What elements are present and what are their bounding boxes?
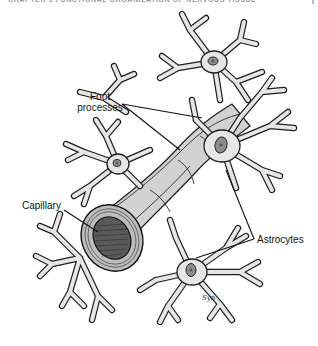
astrocyte-capillary-figure: Foot processes Capillary Astrocytes Syn: [0, 0, 318, 346]
label-foot-line1: Foot: [90, 91, 110, 102]
leader-foot-processes-1: [122, 104, 180, 150]
label-astrocytes: Astrocytes: [257, 234, 304, 245]
astrocyte-bottom-right: [140, 220, 260, 322]
label-foot-line2: processes: [77, 102, 123, 113]
astrocyte-top: [160, 14, 262, 100]
artist-signature: Syn: [202, 294, 216, 302]
label-capillary: Capillary: [22, 200, 61, 211]
leader-astrocyte-lower: [196, 239, 254, 258]
